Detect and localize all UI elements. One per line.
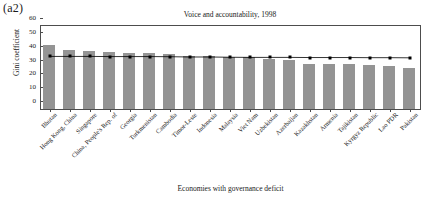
bar [323, 64, 335, 109]
bar-slot [240, 26, 260, 109]
x-tick-label: Malaysia [217, 111, 239, 133]
bar-slot [340, 26, 360, 109]
bar [203, 56, 215, 109]
bar [183, 56, 195, 109]
y-axis-title: Gini coefficient [12, 5, 21, 101]
bar-series [40, 26, 420, 109]
bar [243, 57, 255, 109]
x-tick-label: Bhutan [40, 111, 58, 129]
bar [43, 45, 55, 109]
bar-slot [180, 26, 200, 109]
bar [63, 50, 75, 109]
bar [103, 52, 115, 109]
bar-slot [360, 26, 380, 109]
x-axis-title: Economies with governance deficit [40, 184, 421, 193]
bar-slot [120, 26, 140, 109]
bar [283, 60, 295, 109]
bar-slot [320, 26, 340, 109]
plot-area: 0102030405060 [40, 25, 421, 110]
bar [223, 57, 235, 109]
bar-slot [140, 26, 160, 109]
x-tick-label: Hong Kong, China [38, 111, 78, 151]
bar-slot [200, 26, 220, 109]
bar [83, 51, 95, 109]
bar [343, 64, 355, 109]
bar-slot [400, 26, 420, 109]
bar [123, 53, 135, 109]
x-tick-label: Pakistan [398, 111, 419, 132]
bar-slot [80, 26, 100, 109]
bar-slot [160, 26, 180, 109]
bar [163, 54, 175, 109]
bar [383, 66, 395, 109]
y-tick-40: 40 [29, 42, 40, 50]
x-tick-labels: BhutanHong Kong, ChinaSingaporeChina, Pe… [40, 111, 421, 173]
y-tick-60: 60 [29, 14, 40, 22]
chart-title: Voice and accountability, 1998 [40, 10, 420, 19]
bar [263, 59, 275, 109]
y-tick-10: 10 [29, 83, 40, 91]
bar-slot [220, 26, 240, 109]
bar-slot [260, 26, 280, 109]
y-tick-50: 50 [29, 28, 40, 36]
bar [363, 65, 375, 109]
bar-slot [280, 26, 300, 109]
bar-slot [100, 26, 120, 109]
bar-slot [300, 26, 320, 109]
bar-slot [380, 26, 400, 109]
y-tick-30: 30 [29, 56, 40, 64]
plot-inner: 0102030405060 [40, 26, 420, 109]
y-tick-20: 20 [29, 69, 40, 77]
x-tick-label: Lao PDR [377, 111, 399, 133]
x-tick-label: Indonesia [196, 111, 219, 134]
figure-panel: (a2) Voice and accountability, 1998 Gini… [0, 0, 424, 213]
bar [403, 68, 415, 109]
bar [303, 64, 315, 109]
y-tick-0: 0 [33, 97, 41, 105]
bar [143, 53, 155, 109]
bar-slot [40, 26, 60, 109]
bar-slot [60, 26, 80, 109]
